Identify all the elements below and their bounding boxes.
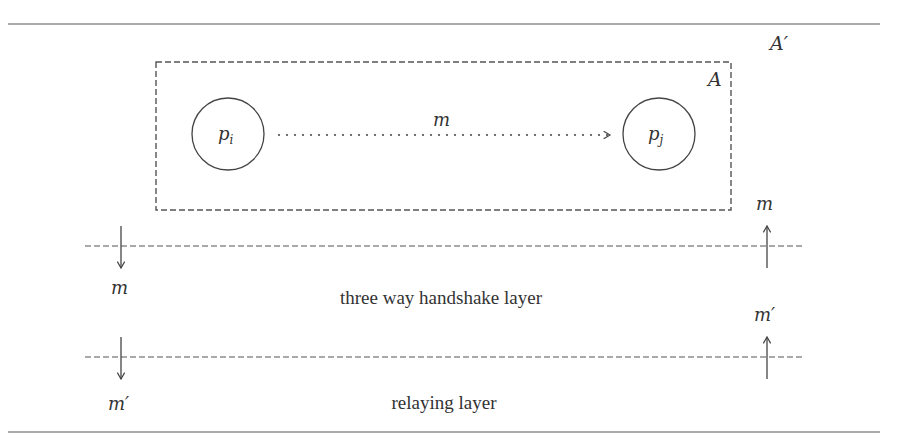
inner-region-box	[156, 62, 731, 210]
relaying-layer-label: relaying layer	[392, 392, 498, 413]
process-j-label: p	[648, 123, 660, 144]
inner-region-label: A	[706, 68, 722, 90]
process-i-label: p	[218, 123, 230, 144]
message-label: m	[433, 109, 450, 130]
svg-text:pj: pj	[648, 123, 664, 147]
svg-text:pi: pi	[218, 123, 234, 147]
outer-region-label: A′	[768, 32, 789, 54]
down-label-layer2: m′	[108, 393, 129, 414]
process-node-j: pj	[623, 98, 695, 170]
process-i-subscript: i	[230, 133, 234, 147]
layered-protocol-diagram: A′ A pi pj m m m′ m m′ three way handsha…	[0, 0, 923, 447]
handshake-layer-label: three way handshake layer	[340, 287, 543, 308]
up-label-layer1: m	[756, 193, 773, 214]
up-label-layer2: m′	[754, 304, 775, 325]
down-label-layer1: m	[111, 277, 128, 298]
process-node-i: pi	[192, 98, 264, 170]
